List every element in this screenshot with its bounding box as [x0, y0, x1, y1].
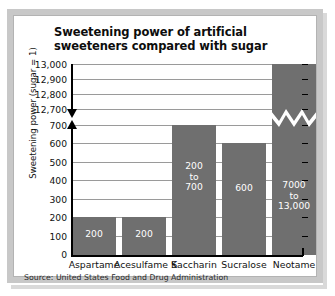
y-tick-12800: 12,800 [21, 90, 67, 100]
y-tick-300: 300 [21, 195, 67, 205]
plot-area: Sweetening power (sugar = 1) 13,000 12,9… [14, 16, 316, 276]
y-tick-100: 100 [21, 232, 67, 242]
right-tick-12900 [302, 79, 308, 80]
y-tick-600: 600 [21, 139, 67, 149]
y-tick-12900: 12,900 [21, 75, 67, 85]
x-axis-line [71, 255, 303, 257]
x-label-saccharin: Saccharin [168, 259, 220, 270]
y-tick-12700: 12,700 [21, 105, 67, 115]
bar-value-sucralose: 600 [222, 183, 266, 194]
chart-page: Sweetening power of artificial sweetener… [0, 0, 335, 296]
bar-value-neotame: 7000 to 13,000 [272, 180, 316, 212]
y-tick-13000: 13,000 [21, 60, 67, 70]
right-tick-300 [302, 199, 308, 200]
bar-aspartame[interactable]: 200 [72, 217, 116, 255]
gridline-12900 [72, 79, 302, 80]
right-tick-13000 [302, 64, 308, 65]
right-tick-12800 [302, 94, 308, 95]
frame-shadow-right [323, 13, 327, 287]
y-tick-200: 200 [21, 213, 67, 223]
right-tick-100 [302, 236, 308, 237]
axis-break-arrow-down-icon [67, 109, 77, 118]
bar-value-aspartame: 200 [72, 229, 116, 240]
right-tick-600 [302, 143, 308, 144]
gridline-12700 [72, 109, 302, 110]
gridline-13000 [72, 64, 302, 65]
right-tick-12700 [302, 109, 308, 110]
right-tick-200 [302, 217, 308, 218]
bar-sucralose[interactable]: 600 [222, 143, 266, 255]
bar-value-saccharin: 200 to 700 [172, 161, 216, 193]
gridline-12800 [72, 94, 302, 95]
y-tick-0: 0 [21, 250, 67, 260]
x-label-sucralose: Sucralose [218, 259, 270, 270]
y-tick-400: 400 [21, 176, 67, 186]
axis-break-zigzag-icon [272, 108, 316, 126]
y-axis-upper-line [71, 64, 73, 110]
right-tick-400 [302, 180, 308, 181]
y-tick-700: 700 [21, 121, 67, 131]
bar-neotame[interactable]: 7000 to 13,000 [272, 64, 316, 255]
bar-acesulfame-k[interactable]: 200 [122, 217, 166, 255]
chart-canvas: Sweetening power of artificial sweetener… [13, 15, 317, 277]
right-tick-700 [302, 125, 308, 126]
x-axis-right-cap [302, 248, 304, 256]
y-tick-500: 500 [21, 158, 67, 168]
y-axis-lower-line [71, 128, 73, 256]
x-label-acesulfame-k: Acesulfame K [114, 259, 174, 270]
bar-saccharin[interactable]: 200 to 700 [172, 125, 216, 255]
chart-frame: Sweetening power of artificial sweetener… [7, 9, 323, 283]
source-note: Source: United States Food and Drug Admi… [24, 273, 228, 282]
x-label-neotame: Neotame [268, 259, 320, 270]
bar-value-acesulfame-k: 200 [122, 229, 166, 240]
right-tick-500 [302, 162, 308, 163]
frame-shadow-bottom [11, 285, 327, 289]
